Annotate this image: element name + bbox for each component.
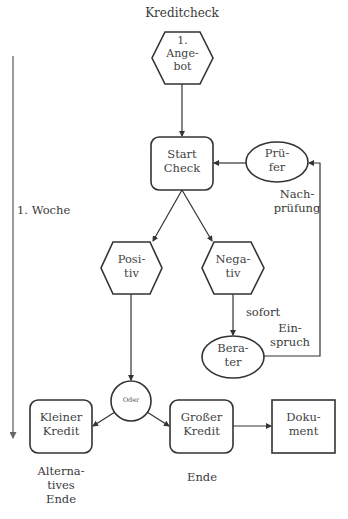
edge-start-positiv: [153, 190, 182, 241]
node-oder[interactable]: Oder: [111, 397, 151, 405]
node-pruefer[interactable]: Prü- fer: [247, 147, 307, 175]
annotation-alternatives-ende: Alterna- tives Ende: [26, 465, 96, 506]
node-positiv[interactable]: Posi- tiv: [101, 253, 162, 281]
node-dokument[interactable]: Doku- ment: [272, 411, 335, 439]
edge-oder-grosser: [147, 412, 169, 426]
annotation-nachpruefung: Nach- prüfung: [262, 188, 332, 216]
annotation-einspruch: Ein- spruch: [265, 322, 315, 350]
edge-oder-kleiner: [93, 412, 115, 426]
node-angebot[interactable]: 1. Ange- bot: [152, 34, 213, 74]
annotation-ende: Ende: [172, 471, 232, 485]
node-grosser-kredit[interactable]: Großer Kredit: [170, 411, 233, 439]
diagram-title: Kreditcheck: [132, 6, 232, 20]
node-negativ[interactable]: Nega- tiv: [202, 253, 264, 281]
node-start-check[interactable]: Start Check: [151, 148, 213, 176]
diagram-canvas: [0, 0, 348, 519]
kreditcheck-diagram: Kreditcheck 1. Woche 1. Ange- bot Start …: [0, 0, 348, 519]
annotation-sofort: sofort: [238, 306, 288, 320]
timeline-label: 1. Woche: [17, 204, 77, 218]
node-berater[interactable]: Bera- ter: [203, 342, 263, 370]
edge-start-negativ: [182, 190, 212, 241]
node-kleiner-kredit[interactable]: Kleiner Kredit: [30, 411, 92, 439]
